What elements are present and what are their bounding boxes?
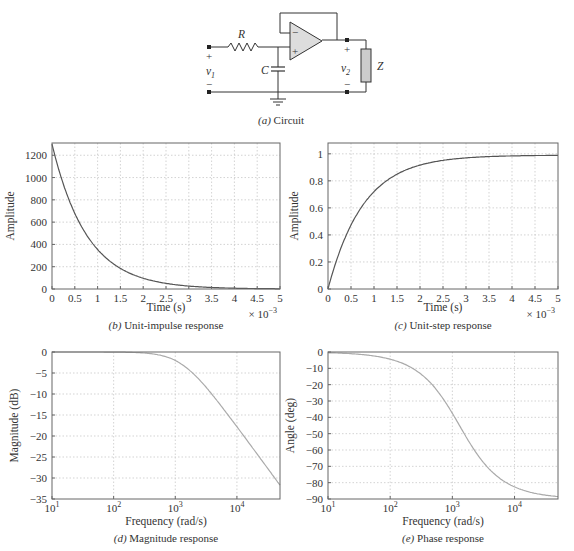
y-tick-label: −20 [30, 430, 48, 442]
x-tick-label: 5 [555, 292, 561, 304]
v2-minus: − [344, 78, 350, 90]
x-tick-label: 3.5 [482, 292, 496, 304]
y-axis-label: Amplitude [288, 191, 301, 240]
y-tick-label: −40 [306, 411, 324, 423]
x-tick-label: 3 [463, 292, 469, 304]
y-tick-label: −20 [306, 379, 324, 391]
data-curve [52, 352, 280, 485]
y-tick-label: −90 [306, 493, 324, 505]
x-axis-multiplier: × 10−3 [249, 306, 277, 320]
plot-frame [52, 352, 280, 499]
opamp-minus: − [292, 26, 298, 38]
chart-phase-response: 1011021031040−10−20−30−40−50−60−70−80−90… [284, 346, 558, 545]
chart-caption: (b) Unit-impulse response [109, 319, 224, 332]
x-tick-label: 4 [232, 292, 238, 304]
y-tick-label: −80 [306, 477, 324, 489]
y-axis-label: Amplitude [4, 191, 17, 240]
y-tick-label: 1200 [25, 149, 48, 161]
y-tick-label: −50 [306, 428, 324, 440]
x-tick-label: 3.5 [205, 292, 219, 304]
y-tick-label: 0 [42, 346, 48, 358]
label-R: R [237, 28, 245, 40]
x-tick-label: 5 [277, 292, 283, 304]
label-v2: v2 [341, 62, 350, 77]
x-tick-label: 1 [371, 292, 377, 304]
y-tick-label: −60 [306, 444, 324, 456]
chart-magnitude-response: 1011021031040−5−10−15−20−25−30−35Frequen… [8, 346, 280, 545]
x-tick-label: 104 [229, 500, 244, 514]
y-tick-label: 0 [42, 283, 48, 295]
y-tick-label: 600 [31, 216, 48, 228]
y-tick-label: −10 [306, 362, 324, 374]
x-tick-label: 2 [140, 292, 146, 304]
terminal-v2-top [345, 38, 349, 42]
y-tick-label: 0.6 [309, 202, 323, 214]
resistor-icon [228, 43, 258, 51]
opamp-plus: + [292, 45, 298, 57]
x-tick-label: 103 [168, 500, 183, 514]
y-tick-label: 0.8 [309, 175, 323, 187]
y-tick-label: 400 [31, 238, 48, 250]
x-tick-label: 0.5 [344, 292, 358, 304]
x-tick-label: 2 [417, 292, 423, 304]
x-tick-label: 1.5 [390, 292, 404, 304]
caption-a: (a) Circuit [258, 114, 304, 127]
chart-impulse-response: 00.511.522.533.544.550200400600800100012… [4, 143, 283, 332]
y-tick-label: 1000 [25, 172, 48, 184]
v2-plus: + [344, 43, 350, 55]
x-axis-label: Time (s) [147, 301, 186, 314]
y-tick-label: −5 [35, 367, 47, 379]
x-tick-label: 102 [106, 500, 121, 514]
x-tick-label: 4 [509, 292, 515, 304]
terminal-v2-bottom [345, 90, 349, 94]
chart-step-response: 00.511.522.533.544.5500.20.40.60.81× 10−… [288, 143, 561, 332]
y-tick-label: 0.4 [309, 229, 323, 241]
x-axis-label: Frequency (rad/s) [125, 515, 207, 528]
y-tick-label: 0 [318, 283, 324, 295]
x-tick-label: 0.5 [68, 292, 82, 304]
y-tick-label: −10 [30, 388, 48, 400]
load-impedance-icon [361, 49, 371, 82]
chart-caption: (e) Phase response [402, 532, 484, 545]
x-tick-label: 0 [325, 292, 331, 304]
y-tick-label: −70 [306, 460, 324, 472]
y-tick-label: −30 [306, 395, 324, 407]
plot-frame [328, 352, 558, 499]
y-tick-label: −25 [30, 451, 48, 463]
x-axis-multiplier: × 10−3 [527, 306, 555, 320]
x-tick-label: 0 [49, 292, 55, 304]
x-tick-label: 4.5 [528, 292, 542, 304]
y-tick-label: 200 [31, 261, 48, 273]
circuit-diagram: − + R C Z + − v1 + − v2 (a) Circuit [206, 13, 384, 127]
y-tick-label: 800 [31, 194, 48, 206]
x-tick-label: 1.5 [114, 292, 128, 304]
figure-canvas: − + R C Z + − v1 + − v2 (a) Circuit 00.5… [0, 0, 574, 551]
terminal-v1-bottom [207, 90, 211, 94]
data-curve [328, 353, 558, 497]
y-axis-label: Angle (deg) [284, 398, 297, 453]
label-C: C [261, 64, 269, 76]
x-tick-label: 103 [445, 500, 460, 514]
chart-caption: (c) Unit-step response [394, 319, 491, 332]
x-tick-label: 102 [383, 500, 398, 514]
terminal-v1-top [207, 45, 211, 49]
y-tick-label: −15 [30, 409, 48, 421]
x-axis-label: Frequency (rad/s) [402, 515, 484, 528]
y-tick-label: 0 [318, 346, 324, 358]
x-tick-label: 104 [507, 500, 522, 514]
y-tick-label: −35 [30, 493, 48, 505]
y-tick-label: 1 [318, 148, 324, 160]
x-tick-label: 1 [95, 292, 101, 304]
y-tick-label: −30 [30, 472, 48, 484]
x-tick-label: 4.5 [250, 292, 264, 304]
x-axis-label: Time (s) [424, 301, 463, 314]
y-tick-label: 0.2 [309, 256, 323, 268]
chart-caption: (d) Magnitude response [114, 532, 219, 545]
ground-icon [270, 99, 286, 105]
label-Z: Z [377, 60, 384, 72]
x-tick-label: 3 [186, 292, 192, 304]
y-axis-label: Magnitude (dB) [8, 388, 21, 462]
v1-plus: + [206, 50, 212, 62]
